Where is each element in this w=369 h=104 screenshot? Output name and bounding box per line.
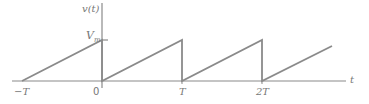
tick-label-2T: 2T <box>256 87 269 97</box>
peak-label: Vm <box>86 30 101 44</box>
sawtooth-waveform <box>22 40 332 81</box>
x-axis-label: t <box>350 75 354 85</box>
tick-label-minus-T: −T <box>14 87 29 97</box>
tick-label-T: T <box>179 87 186 97</box>
peak-label-main: V <box>86 29 94 42</box>
sawtooth-figure: v(t) Vm t −T 0 T 2T <box>0 0 369 104</box>
peak-label-sub: m <box>94 36 101 44</box>
y-axis-label: v(t) <box>82 4 99 14</box>
tick-label-zero: 0 <box>93 87 99 97</box>
